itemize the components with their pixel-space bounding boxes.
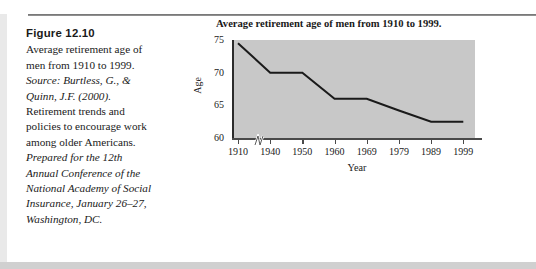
figure-description: Average retirement age of men from 1910 … [26, 43, 142, 70]
figure-number: Figure 12.10 [26, 26, 154, 41]
y-tick-label: 75 [198, 34, 224, 45]
figure-source-citation: Source: Burtless, G., & Quinn, J.F. (200… [26, 74, 131, 101]
x-tick-mark [302, 139, 303, 144]
x-tick-mark [463, 139, 464, 144]
x-tick-mark [238, 139, 239, 144]
y-axis-title: Age [192, 69, 203, 103]
chart-title: Average retirement age of men from 1910 … [216, 18, 526, 29]
x-tick-mark [335, 139, 336, 144]
figure-source-conference: Prepared for the 12th Annual Conference … [26, 151, 151, 225]
left-margin-band [0, 14, 7, 269]
data-series-line [232, 40, 475, 138]
x-tick-mark [399, 139, 400, 144]
x-tick-mark [367, 139, 368, 144]
plot-wrapper: 60657075 1910194019501960196919791989199… [196, 36, 526, 176]
x-axis-title: Year [232, 162, 482, 173]
bottom-band [0, 262, 536, 269]
x-tick-mark [270, 139, 271, 144]
chart-figure: Average retirement age of men from 1910 … [196, 18, 526, 176]
figure-caption: Figure 12.10 Average retirement age of m… [26, 26, 154, 227]
x-tick-mark [431, 139, 432, 144]
x-tick-label: 1999 [443, 146, 483, 157]
y-tick-label: 60 [198, 132, 224, 143]
header-rule [28, 14, 536, 16]
figure-source-title: Retirement trends and policies to encour… [26, 105, 147, 148]
